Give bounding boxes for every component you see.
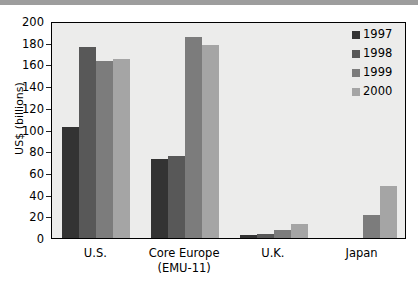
x-tick-label-line2: (EMU-11) bbox=[149, 261, 220, 275]
y-tick-mark bbox=[46, 152, 51, 153]
y-tick-label: 80 bbox=[29, 145, 44, 159]
y-tick-label: 40 bbox=[29, 189, 44, 203]
y-axis-tick-labels: 020406080100120140160180200 bbox=[14, 22, 44, 239]
legend-swatch-icon bbox=[352, 31, 360, 39]
y-tick-mark bbox=[46, 196, 51, 197]
y-tick-mark bbox=[46, 87, 51, 88]
bar-chart-figure: US$ (billions) 0204060801001201401601802… bbox=[0, 0, 418, 288]
bar bbox=[185, 37, 202, 238]
y-tick-mark bbox=[46, 109, 51, 110]
legend-swatch-icon bbox=[352, 69, 360, 77]
legend-label: 1997 bbox=[363, 29, 392, 41]
y-tick-mark bbox=[46, 174, 51, 175]
legend: 1997199819992000 bbox=[352, 27, 392, 103]
legend-label: 2000 bbox=[363, 86, 392, 98]
y-tick-label: 200 bbox=[22, 15, 44, 29]
legend-label: 1999 bbox=[363, 67, 392, 79]
legend-item: 1998 bbox=[352, 46, 392, 62]
y-tick-label: 0 bbox=[37, 232, 44, 246]
top-border-band bbox=[0, 0, 418, 5]
legend-item: 2000 bbox=[352, 84, 392, 100]
legend-swatch-icon bbox=[352, 50, 360, 58]
x-tick-label-line1: U.K. bbox=[261, 246, 284, 260]
x-tick-label-line1: Japan bbox=[346, 246, 378, 260]
bar bbox=[62, 127, 79, 238]
x-tick-label-line1: U.S. bbox=[84, 246, 107, 260]
bar-group bbox=[240, 23, 308, 238]
x-tick-label: Japan bbox=[346, 246, 378, 260]
bar bbox=[274, 230, 291, 238]
y-tick-label: 180 bbox=[22, 37, 44, 51]
bar-group bbox=[62, 23, 130, 238]
y-tick-label: 160 bbox=[22, 58, 44, 72]
x-tick-label: U.S. bbox=[84, 246, 107, 260]
bar bbox=[151, 159, 168, 238]
legend-item: 1997 bbox=[352, 27, 392, 43]
y-tick-label: 20 bbox=[29, 210, 44, 224]
bar bbox=[240, 235, 257, 238]
bar bbox=[96, 61, 113, 238]
x-tick-label: Core Europe(EMU-11) bbox=[149, 246, 220, 275]
y-tick-label: 60 bbox=[29, 167, 44, 181]
y-tick-mark bbox=[46, 217, 51, 218]
legend-label: 1998 bbox=[363, 48, 392, 60]
bar bbox=[202, 45, 219, 238]
y-tick-mark bbox=[46, 131, 51, 132]
x-tick-label-line1: Core Europe bbox=[149, 246, 220, 260]
legend-swatch-icon bbox=[352, 88, 360, 96]
bar bbox=[113, 59, 130, 238]
x-tick-label: U.K. bbox=[261, 246, 284, 260]
y-tick-mark bbox=[46, 44, 51, 45]
y-tick-mark bbox=[46, 65, 51, 66]
y-tick-label: 140 bbox=[22, 80, 44, 94]
bar bbox=[168, 156, 185, 238]
bar bbox=[291, 224, 308, 238]
bar bbox=[380, 186, 397, 238]
bar bbox=[363, 215, 380, 238]
bar bbox=[257, 234, 274, 238]
legend-item: 1999 bbox=[352, 65, 392, 81]
y-tick-label: 100 bbox=[22, 124, 44, 138]
bar-group bbox=[151, 23, 219, 238]
y-tick-label: 120 bbox=[22, 102, 44, 116]
bar bbox=[79, 47, 96, 238]
